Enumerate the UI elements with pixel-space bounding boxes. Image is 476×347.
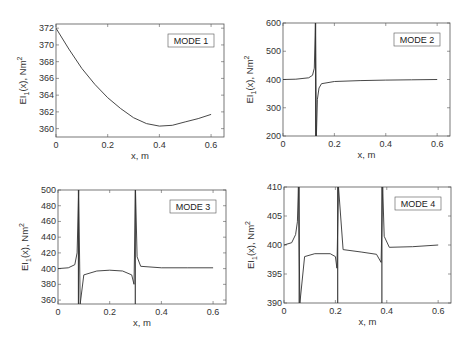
x-tick-label: 0 — [280, 139, 285, 149]
x-tick-label: 0.2 — [329, 306, 342, 316]
x-tick-label: 0 — [281, 306, 286, 316]
y-tick-label: 410 — [267, 182, 282, 192]
x-tick-label: 0.2 — [328, 139, 341, 149]
x-tick-label: 0 — [55, 307, 60, 317]
y-tick-label: 405 — [267, 211, 282, 221]
legend-label: MODE 4 — [401, 199, 436, 209]
y-tick-label: 366 — [39, 73, 54, 83]
y-tick-label: 370 — [39, 40, 54, 50]
y-tick-label: 380 — [41, 279, 56, 289]
y-tick-label: 400 — [41, 264, 56, 274]
y-tick-label: 500 — [41, 185, 56, 195]
x-tick-label: 0.6 — [205, 140, 218, 150]
figure: 00.20.40.6360362364366368370372x, mEI1(x… — [0, 0, 476, 347]
y-tick-label: 500 — [266, 46, 281, 56]
y-tick-label: 372 — [39, 23, 54, 33]
y-tick-label: 360 — [39, 124, 54, 134]
x-tick-label: 0.6 — [207, 307, 220, 317]
y-tick-label: 390 — [267, 298, 282, 308]
subplot-mode-4: 00.20.40.6390395400405410x, mEI1(x), Nm2… — [244, 182, 451, 327]
x-tick-label: 0.6 — [431, 139, 444, 149]
x-tick-label: 0.4 — [381, 306, 394, 316]
subplot-mode-2: 00.20.40.6200300400500600x, mEI1(x), Nm2… — [243, 18, 450, 160]
y-tick-label: 364 — [39, 90, 54, 100]
y-tick-label: 480 — [41, 201, 56, 211]
subplot-mode-3: 00.20.40.6360380400420440460480500x, mEI… — [18, 185, 226, 328]
x-tick-label: 0.4 — [153, 140, 166, 150]
y-tick-label: 360 — [41, 295, 56, 305]
x-axis-label: x, m — [133, 317, 151, 328]
legend-label: MODE 2 — [400, 35, 435, 45]
y-axis-label: EI1(x), Nm2 — [243, 55, 257, 103]
x-axis-label: x, m — [131, 150, 149, 161]
legend-label: MODE 1 — [174, 36, 209, 46]
y-tick-label: 368 — [39, 57, 54, 67]
y-axis-label: EI1(x), Nm2 — [18, 223, 32, 271]
y-tick-label: 460 — [41, 216, 56, 226]
y-axis-label: EI1(x), Nm2 — [16, 56, 30, 104]
y-tick-label: 440 — [41, 232, 56, 242]
subplot-mode-1: 00.20.40.6360362364366368370372x, mEI1(x… — [16, 23, 224, 161]
x-axis-label: x, m — [359, 316, 377, 327]
x-axis-label: x, m — [358, 149, 376, 160]
y-tick-label: 400 — [266, 75, 281, 85]
y-tick-label: 200 — [266, 131, 281, 141]
x-tick-label: 0.4 — [380, 139, 393, 149]
x-tick-label: 0 — [53, 140, 58, 150]
y-axis-label: EI1(x), Nm2 — [244, 221, 258, 269]
y-tick-label: 600 — [266, 18, 281, 28]
y-tick-label: 400 — [267, 240, 282, 250]
x-tick-label: 0.6 — [432, 306, 445, 316]
x-tick-label: 0.2 — [101, 140, 114, 150]
x-tick-label: 0.2 — [103, 307, 116, 317]
y-tick-label: 420 — [41, 248, 56, 258]
legend-label: MODE 3 — [176, 202, 211, 212]
y-tick-label: 300 — [266, 103, 281, 113]
y-tick-label: 395 — [267, 269, 282, 279]
x-tick-label: 0.4 — [155, 307, 168, 317]
y-tick-label: 362 — [39, 107, 54, 117]
